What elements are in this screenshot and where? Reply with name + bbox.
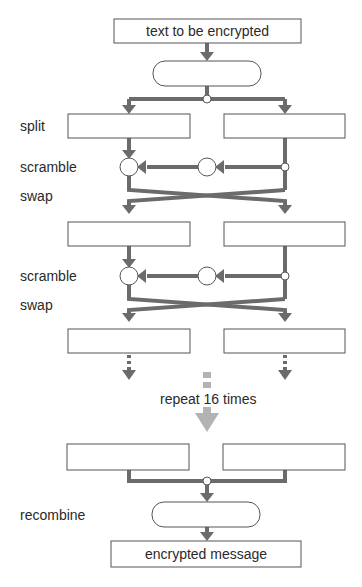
branch-junction-2 bbox=[281, 272, 289, 280]
feistel-diagram bbox=[0, 0, 362, 587]
input-box-label: text to be encrypted bbox=[114, 23, 301, 39]
right-half-box-1 bbox=[224, 114, 345, 138]
label-swap-2: swap bbox=[20, 297, 53, 313]
label-scramble-2: scramble bbox=[20, 268, 77, 284]
branch-junction-1 bbox=[281, 163, 289, 171]
f-node-1 bbox=[198, 158, 216, 176]
recombine-junction bbox=[203, 477, 211, 485]
recombine-pill bbox=[152, 502, 260, 527]
output-box-label: encrypted message bbox=[111, 546, 301, 562]
right-half-box-2 bbox=[224, 222, 345, 246]
right-half-box-3 bbox=[224, 329, 345, 353]
xor-node-1 bbox=[120, 158, 138, 176]
label-split: split bbox=[20, 118, 45, 134]
label-swap-1: swap bbox=[20, 188, 53, 204]
split-junction bbox=[203, 95, 211, 103]
split-pill bbox=[153, 61, 261, 86]
xor-node-2 bbox=[120, 267, 138, 285]
left-half-box-3 bbox=[68, 329, 190, 353]
left-half-box-2 bbox=[68, 222, 190, 246]
label-scramble-1: scramble bbox=[20, 159, 77, 175]
right-half-box-final bbox=[223, 444, 345, 470]
f-node-2 bbox=[198, 267, 216, 285]
left-half-box-final bbox=[67, 444, 189, 470]
left-half-box-1 bbox=[68, 114, 190, 138]
label-recombine: recombine bbox=[20, 507, 85, 523]
repeat-label: repeat 16 times bbox=[160, 391, 257, 407]
